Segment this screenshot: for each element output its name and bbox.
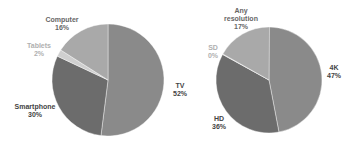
slice-name: Smartphone (15, 103, 56, 111)
slice-percent: 17% (224, 23, 258, 31)
slice-name: 4K (327, 64, 341, 72)
slice-label-computer: Computer16% (45, 16, 78, 32)
slice-label-tablets: Tablets2% (27, 42, 51, 58)
pie-chart-2 (216, 27, 322, 133)
slice-label-4k: 4K47% (327, 64, 341, 80)
slice-percent: 30% (15, 111, 56, 119)
slice-label-hd: HD36% (212, 115, 226, 131)
pie-chart-1 (52, 24, 164, 136)
slice-percent: 52% (173, 90, 187, 98)
pie-slice-4k (269, 27, 322, 132)
slice-name: SD (208, 44, 218, 52)
slice-name: Tablets (27, 42, 51, 50)
slice-label-any-resolution: Anyresolution17% (224, 7, 258, 31)
slice-name: Computer (45, 16, 78, 24)
slice-label-smartphone: Smartphone30% (15, 103, 56, 119)
slice-percent: 2% (27, 50, 51, 58)
slice-label-tv: TV52% (173, 82, 187, 98)
slice-percent: 47% (327, 72, 341, 80)
slice-name: resolution (224, 15, 258, 23)
slice-percent: 36% (212, 123, 226, 131)
slice-percent: 0% (208, 52, 218, 60)
slice-percent: 16% (45, 24, 78, 32)
slice-name: HD (212, 115, 226, 123)
slice-name: Any (224, 7, 258, 15)
slice-label-sd: SD0% (208, 44, 218, 60)
pie-slice-tv (101, 24, 164, 136)
slice-name: TV (173, 82, 187, 90)
chart-area: TV52%Smartphone30%Tablets2%Computer16%4K… (0, 0, 350, 146)
